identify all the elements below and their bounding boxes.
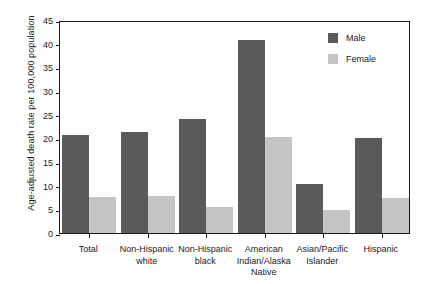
bar: [148, 196, 175, 233]
bar: [179, 119, 206, 233]
legend-swatch-icon: [328, 54, 338, 64]
x-tick-mark: [206, 233, 207, 238]
bar: [238, 40, 265, 233]
legend: MaleFemale: [328, 33, 376, 75]
bar: [296, 184, 323, 233]
bar: [62, 135, 89, 233]
y-tick-mark: [56, 235, 60, 236]
y-tick-label: 5: [48, 205, 53, 216]
bar: [206, 207, 233, 233]
bar: [382, 198, 409, 234]
legend-item: Female: [328, 54, 376, 64]
bar-chart: Age-adjusted death rate per 100,000 popu…: [0, 0, 432, 284]
x-tick-mark: [148, 233, 149, 238]
bar: [265, 137, 292, 233]
y-tick-label: 40: [43, 40, 53, 51]
x-tick-mark: [323, 233, 324, 238]
x-tick-mark: [382, 233, 383, 238]
legend-label: Female: [346, 54, 376, 64]
bar: [355, 138, 382, 233]
y-tick-label: 0: [48, 229, 53, 240]
x-tick-mark: [265, 233, 266, 238]
y-tick-label: 25: [43, 111, 53, 122]
y-tick-label: 20: [43, 134, 53, 145]
legend-swatch-icon: [328, 33, 338, 43]
legend-item: Male: [328, 33, 376, 43]
bar: [323, 210, 350, 233]
legend-label: Male: [346, 33, 366, 43]
bar: [121, 132, 148, 233]
y-tick-label: 10: [43, 182, 53, 193]
x-axis-label: Hispanic: [331, 244, 431, 256]
y-tick-label: 45: [43, 16, 53, 27]
y-tick-label: 15: [43, 158, 53, 169]
y-axis-title: Age-adjusted death rate per 100,000 popu…: [26, 0, 36, 228]
y-tick-label: 35: [43, 63, 53, 74]
bar: [89, 197, 116, 233]
x-tick-mark: [89, 233, 90, 238]
y-tick-label: 30: [43, 87, 53, 98]
